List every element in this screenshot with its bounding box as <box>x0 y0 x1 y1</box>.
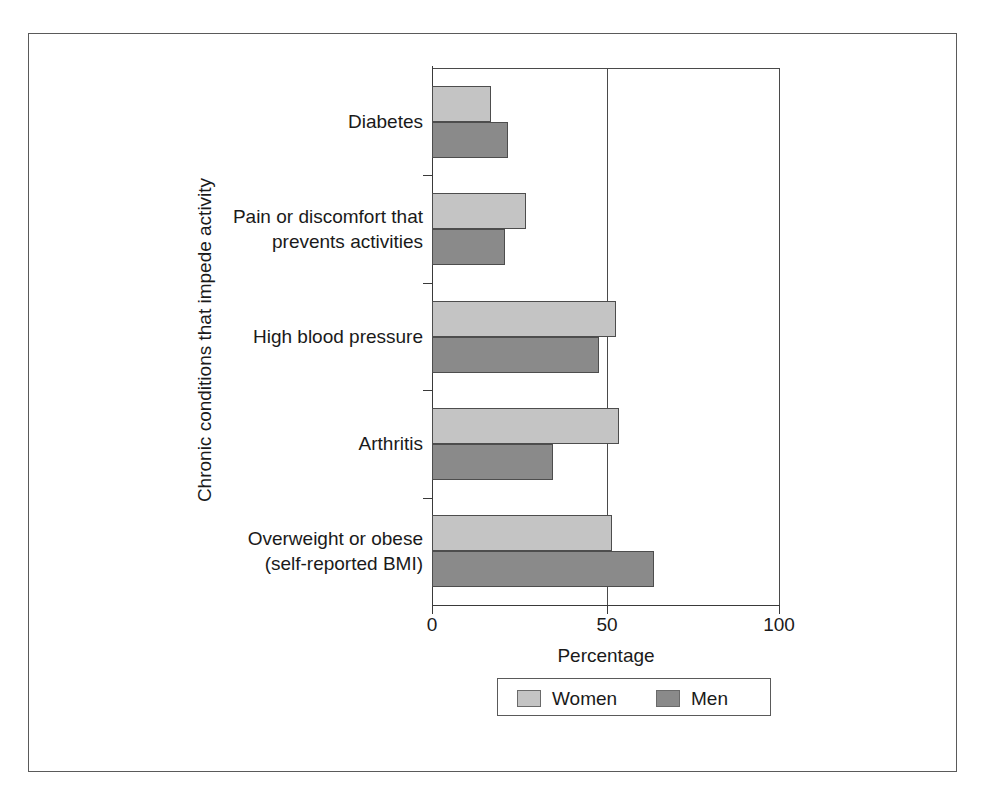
y-category-labels: DiabetesPain or discomfort thatprevents … <box>178 0 423 789</box>
bar-men-3 <box>432 444 553 480</box>
y-category-label-2: High blood pressure <box>183 324 423 349</box>
y-category-label-line: Overweight or obese <box>248 528 423 549</box>
y-category-label-line: Arthritis <box>359 433 423 454</box>
legend-item-men[interactable]: Men <box>656 687 728 709</box>
bar-women-0 <box>432 86 491 122</box>
bar-men-2 <box>432 337 599 373</box>
y-category-label-3: Arthritis <box>183 431 423 456</box>
legend-label-men: Men <box>691 689 728 708</box>
x-axis-title: Percentage <box>432 645 780 667</box>
y-category-label-line: prevents activities <box>272 231 423 252</box>
y-category-label-line: Pain or discomfort that <box>233 206 423 227</box>
gridline-100 <box>779 68 780 605</box>
x-tick-100 <box>779 605 780 614</box>
legend-item-women[interactable]: Women <box>517 687 617 709</box>
bar-men-4 <box>432 551 654 587</box>
plot-top-border <box>432 68 780 69</box>
bar-women-1 <box>432 193 526 229</box>
x-tick-0 <box>432 605 433 614</box>
legend: Women Men <box>497 678 771 716</box>
y-tick-4 <box>423 498 432 499</box>
scan-artifact-top-right <box>600 1 640 13</box>
bar-men-0 <box>432 122 508 158</box>
y-category-label-0: Diabetes <box>183 109 423 134</box>
y-category-label-line: High blood pressure <box>253 326 423 347</box>
legend-swatch-women <box>517 690 541 707</box>
y-category-label-line: (self-reported BMI) <box>265 553 423 574</box>
bar-women-3 <box>432 408 619 444</box>
y-category-label-4: Overweight or obese(self-reported BMI) <box>183 526 423 576</box>
x-tick-50 <box>607 605 608 614</box>
y-category-label-1: Pain or discomfort thatprevents activiti… <box>183 204 423 254</box>
legend-swatch-men <box>656 690 680 707</box>
x-axis-line <box>432 605 780 606</box>
legend-label-women: Women <box>552 689 617 708</box>
x-tick-label-100: 100 <box>749 614 809 636</box>
y-category-label-line: Diabetes <box>348 111 423 132</box>
y-tick-1 <box>423 175 432 176</box>
bar-men-1 <box>432 229 505 265</box>
y-tick-2 <box>423 283 432 284</box>
y-tick-3 <box>423 390 432 391</box>
bar-women-4 <box>432 515 612 551</box>
bar-women-2 <box>432 301 616 337</box>
x-tick-label-50: 50 <box>577 614 637 636</box>
